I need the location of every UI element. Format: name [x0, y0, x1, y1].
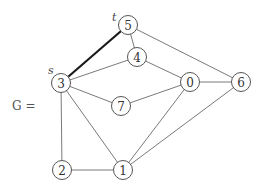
node-label: 4: [133, 51, 141, 65]
target-label: t: [112, 11, 117, 24]
edge-3-5: [61, 25, 128, 83]
node-label: 6: [237, 76, 245, 90]
node-2: 2: [53, 161, 72, 180]
edge-3-4: [61, 57, 137, 83]
graph-diagram: G = 01234567 s t: [0, 0, 265, 188]
edge-6-1: [123, 82, 241, 170]
node-1: 1: [114, 161, 133, 180]
node-label: 7: [117, 100, 125, 114]
edge-0-1: [123, 82, 190, 170]
graph-name-label: G =: [12, 99, 35, 113]
edge-7-0: [121, 82, 190, 106]
node-label: 5: [124, 19, 132, 33]
edge-3-1: [61, 83, 123, 170]
node-label: 1: [119, 164, 127, 178]
node-label: 2: [58, 164, 66, 178]
node-7: 7: [112, 97, 131, 116]
node-6: 6: [232, 73, 251, 92]
node-5: 5: [119, 16, 138, 35]
node-label: 0: [186, 76, 194, 90]
node-label: 3: [57, 77, 65, 91]
node-3: 3: [52, 74, 71, 93]
node-0: 0: [181, 73, 200, 92]
edges-group: [61, 25, 241, 170]
node-4: 4: [128, 48, 147, 67]
edge-3-2: [61, 83, 62, 170]
source-label: s: [48, 64, 54, 77]
